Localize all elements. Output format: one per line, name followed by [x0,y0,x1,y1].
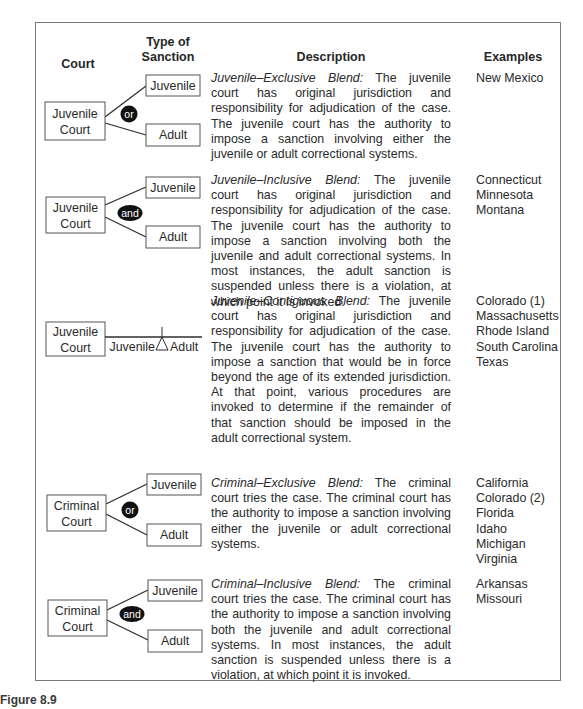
court-label-line2: Court [60,217,91,231]
example-state: Florida [476,506,566,521]
example-state: Minnesota [476,188,566,203]
example-state: California [476,476,566,491]
connector-label: or [124,108,134,120]
example-state: Arkansas [476,577,566,592]
description-row-5: Criminal–Inclusive Blend: The criminal c… [211,577,451,683]
examples-row-1: New Mexico [476,71,566,86]
sanction-adult-label: Adult [159,230,188,244]
court-label-line1: Juvenile [53,201,99,215]
court-label-line1: Criminal [54,499,99,513]
description-row-2: Juvenile–Inclusive Blend: The juvenile c… [211,173,451,310]
row-1-diagram: Juvenile Court Juvenile Adult or [45,75,200,146]
example-state: Virginia [476,552,566,567]
description-text: The criminal court tries the case. The c… [211,577,451,682]
sanction-juvenile-label: Juvenile [152,584,198,598]
examples-row-2: Connecticut Minnesota Montana [476,173,566,219]
court-label-line1: Criminal [55,604,100,618]
sanction-juvenile-label: Juvenile [110,340,156,354]
example-state: South Carolina [476,340,566,355]
examples-row-3: Colorado (1) Massachusetts Rhode Island … [476,294,566,370]
row-5-diagram: Criminal Court Juvenile Adult and [48,580,202,652]
description-row-1: Juvenile–Exclusive Blend: The juvenile c… [211,71,451,162]
sanction-juvenile-label: Juvenile [150,79,196,93]
description-row-3: Juvenile–Contiguous Blend: The juvenile … [211,294,451,446]
examples-row-5: Arkansas Missouri [476,577,566,607]
example-state: Idaho [476,522,566,537]
blend-name: Criminal–Exclusive Blend: [211,476,363,490]
example-state: Rhode Island [476,324,566,339]
blend-name: Criminal–Inclusive Blend: [211,577,360,591]
blend-name: Juvenile–Contiguous Blend: [211,294,370,308]
figure-caption: Figure 8.9 [0,693,57,707]
connector-label: and [121,207,139,219]
example-state: Texas [476,355,566,370]
example-state: Connecticut [476,173,566,188]
row-4-diagram: Criminal Court Juvenile Adult or [47,474,201,546]
sanction-adult-label: Adult [161,634,190,648]
examples-row-4: California Colorado (2) Florida Idaho Mi… [476,476,566,567]
connector-label: and [123,608,141,620]
sanction-adult-label: Adult [159,128,188,142]
row-2-diagram: Juvenile Court Juvenile Adult and [46,177,200,248]
fulcrum-triangle-icon [156,337,168,350]
description-text: The juvenile court has original jurisdic… [211,173,451,309]
court-label-line2: Court [62,620,93,634]
description-text: The juvenile court has original jurisdic… [211,294,451,445]
sanction-juvenile-label: Juvenile [150,181,196,195]
court-label-line2: Court [60,341,91,355]
row-3-diagram: Juvenile Court Juvenile Adult [46,322,202,356]
example-state: Montana [476,203,566,218]
court-label-line1: Juvenile [52,107,98,121]
court-label-line2: Court [61,515,92,529]
description-row-4: Criminal–Exclusive Blend: The criminal c… [211,476,451,552]
connector-label: or [125,504,135,516]
sanction-adult-label: Adult [160,528,189,542]
example-state: Michigan [476,537,566,552]
court-label-line2: Court [60,123,91,137]
sanction-adult-label: Adult [170,340,199,354]
blend-name: Juvenile–Exclusive Blend: [211,71,363,85]
example-state: Massachusetts [476,309,566,324]
example-state: Colorado (1) [476,294,566,309]
example-state: Colorado (2) [476,491,566,506]
blend-name: Juvenile–Inclusive Blend: [211,173,360,187]
sanction-juvenile-label: Juvenile [151,478,197,492]
example-state: New Mexico [476,71,566,86]
court-label-line1: Juvenile [53,325,99,339]
example-state: Missouri [476,592,566,607]
